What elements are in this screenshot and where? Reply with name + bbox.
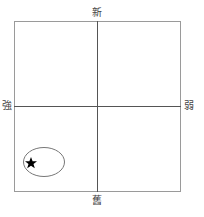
quadrant-diagram	[0, 0, 204, 217]
axis-label-left: 強	[2, 101, 12, 111]
axis-label-right: 弱	[184, 101, 194, 111]
axis-label-bottom: 舊	[92, 196, 102, 206]
axis-label-top: 新	[92, 8, 102, 18]
star-icon	[25, 157, 37, 168]
